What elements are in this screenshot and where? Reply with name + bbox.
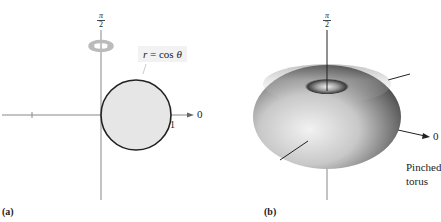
caption-torus: torus [406, 176, 428, 187]
sub-figure-label-a: (a) [2, 206, 14, 217]
axis-label-pi-over-2: π 2 [322, 12, 332, 29]
panel-b-pinched-torus: π 2 0 Pinched torus (b) [220, 0, 440, 222]
axis-back-right [388, 74, 410, 80]
equation-label: r = cos θ [138, 46, 187, 62]
torus-graphic [220, 0, 440, 222]
axis-label-zero: 0 [197, 109, 203, 120]
label-leader-line [143, 64, 146, 74]
axis-right [398, 130, 425, 136]
tick-label-one: 1 [170, 120, 175, 130]
polar-plot-graphic [0, 0, 220, 222]
axis-arrow-icon [187, 113, 194, 118]
axis-label-zero: 0 [433, 131, 439, 142]
axis-arrow-icon [422, 133, 430, 139]
axis-label-pi-over-2: π 2 [96, 12, 106, 29]
circle-r-cos-theta [101, 80, 171, 150]
panel-a-polar-plot: π 2 r = cos θ 0 1 (a) [0, 0, 220, 222]
sub-figure-label-b: (b) [264, 206, 276, 217]
caption-pinched: Pinched [406, 162, 441, 173]
